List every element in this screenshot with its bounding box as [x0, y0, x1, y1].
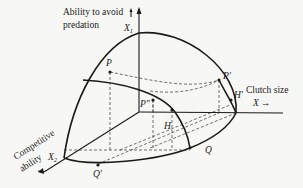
- point-h: [170, 108, 173, 111]
- label-h-prime: H′: [233, 90, 244, 100]
- label-p-double-prime: P″: [139, 99, 151, 109]
- label-q-prime: Q′: [93, 169, 103, 179]
- x2-symbol: X2: [47, 152, 58, 163]
- trade-off-surface-diagram: Ability to avoid predation X1 Clutch siz…: [0, 0, 303, 188]
- surface-upper-boundary: [64, 33, 236, 158]
- x1-symbol: X1: [123, 23, 133, 34]
- x-axis: [139, 112, 283, 113]
- label-arrow-head-icon: [130, 8, 133, 12]
- x-symbol: X→: [252, 98, 270, 108]
- point-q: [189, 147, 192, 150]
- point-p: [108, 70, 111, 73]
- x1-axis-arrow-icon: [137, 7, 142, 14]
- x1-label-line1: Ability to avoid: [63, 7, 123, 17]
- label-p-prime: P′: [222, 71, 232, 81]
- label-h: H: [163, 121, 172, 131]
- point-h-prime: [229, 98, 232, 101]
- point-p-double-prime: [151, 98, 154, 101]
- point-p-prime: [217, 78, 220, 81]
- point-q-prime: [96, 163, 99, 166]
- dashed-diagonal-3: [150, 113, 236, 148]
- dashed-p-to-pprime: [110, 72, 219, 84]
- label-p: P: [105, 58, 112, 68]
- label-q: Q: [205, 145, 212, 155]
- x-label: Clutch size: [246, 85, 288, 95]
- x1-label-line2: predation: [63, 20, 99, 30]
